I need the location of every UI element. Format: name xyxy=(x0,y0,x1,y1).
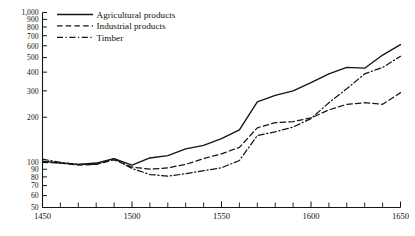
x-axis-tick-label: 1650 xyxy=(392,211,409,221)
y-axis-tick-label: 80 xyxy=(31,173,39,182)
y-axis-tick-label: 1,000 xyxy=(21,8,38,17)
chart-legend: Agricultural productsIndustrial products… xyxy=(57,10,176,43)
x-axis-tick-label: 1600 xyxy=(302,211,319,221)
y-axis-tick-label: 500 xyxy=(27,53,39,62)
y-axis-tick-label: 100 xyxy=(27,158,39,167)
legend-label-timber: Timber xyxy=(97,33,124,43)
price-index-chart: 50607080901002003004005006007008009001,0… xyxy=(0,0,415,236)
x-axis: 14501500155016001650 xyxy=(34,202,409,222)
plot-area xyxy=(43,45,401,176)
y-axis-tick-label: 200 xyxy=(27,113,39,122)
x-axis-tick-label: 1550 xyxy=(213,211,230,221)
x-axis-tick-label: 1500 xyxy=(123,211,140,221)
y-axis-tick-label: 70 xyxy=(31,181,39,190)
y-axis-tick-label: 700 xyxy=(27,32,39,41)
x-axis-tick-label: 1450 xyxy=(34,211,51,221)
series-line-industrial-products xyxy=(43,93,401,170)
series-line-timber xyxy=(43,56,401,176)
legend-label-industrial-products: Industrial products xyxy=(97,21,167,31)
y-axis-tick-label: 400 xyxy=(27,68,39,77)
y-axis-tick-label: 300 xyxy=(27,87,39,96)
y-axis: 50607080901002003004005006007008009001,0… xyxy=(21,8,47,212)
legend-label-agricultural-products: Agricultural products xyxy=(97,10,176,20)
y-axis-tick-label: 600 xyxy=(27,42,39,51)
y-axis-tick-label: 800 xyxy=(27,23,39,32)
y-axis-tick-label: 60 xyxy=(31,191,39,200)
chart-canvas: 50607080901002003004005006007008009001,0… xyxy=(0,0,415,236)
